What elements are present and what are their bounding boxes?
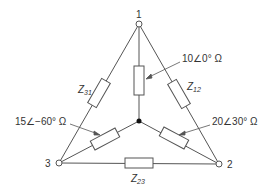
node-label-3: 3	[45, 158, 51, 169]
terminal-3	[56, 160, 62, 166]
resistor-z1	[134, 66, 144, 95]
resistor-z23	[125, 158, 153, 168]
node-label-1: 1	[136, 9, 142, 20]
terminal-1	[136, 21, 142, 27]
label-z2: 20∠30° Ω	[212, 116, 258, 127]
terminal-2	[216, 161, 222, 167]
label-z3: 15∠−60° Ω	[15, 116, 67, 127]
label-z23: Z23	[130, 173, 145, 185]
star-point	[137, 119, 142, 124]
label-z31: Z31	[77, 84, 92, 96]
label-z1: 10∠0° Ω	[182, 53, 222, 64]
circuit-diagram: 1 3 2 10∠0° Ω 15∠−60° Ω 20∠30° Ω Z31 Z12…	[0, 0, 268, 190]
delta-star-circuit: 1 3 2 10∠0° Ω 15∠−60° Ω 20∠30° Ω Z31 Z12…	[0, 0, 268, 190]
node-label-2: 2	[227, 159, 233, 170]
arrow-z1	[147, 62, 180, 78]
resistor-z2	[159, 127, 188, 149]
label-z12: Z12	[186, 81, 201, 93]
